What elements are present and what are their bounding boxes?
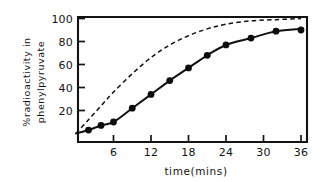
y-axis-title-line2: phenylpyruvate [35, 41, 46, 123]
data-point [298, 27, 305, 34]
chart-figure: 100 80 60 40 20 6 12 18 24 30 36 time(mi… [0, 0, 328, 182]
x-axis-title: time(mins) [164, 165, 227, 177]
y-tick-label-40: 40 [59, 82, 73, 95]
y-axis-title-line1: %radioactivity in [21, 37, 32, 126]
x-tick-labels: 6 12 18 24 30 36 [110, 146, 308, 159]
data-point [248, 35, 255, 42]
data-point [185, 65, 192, 72]
x-tick-label-12: 12 [144, 146, 158, 159]
data-point [204, 52, 211, 59]
data-point [148, 91, 155, 98]
y-tick-label-60: 60 [59, 59, 73, 72]
data-point [85, 127, 92, 134]
theoretical-curve-path [76, 19, 301, 134]
series-observed-phenylpyruvate [76, 27, 304, 134]
y-tick-label-20: 20 [59, 105, 73, 118]
x-tick-label-18: 18 [181, 146, 195, 159]
y-tick-label-80: 80 [59, 36, 73, 49]
data-point [223, 42, 230, 49]
x-tick-label-24: 24 [219, 146, 233, 159]
data-point [273, 28, 280, 35]
y-tick-labels: 100 80 60 40 20 [51, 13, 73, 118]
y-axis-title: %radioactivity in phenylpyruvate [21, 37, 46, 126]
x-tick-label-6: 6 [110, 146, 117, 159]
x-tick-label-36: 36 [294, 146, 308, 159]
data-point [166, 77, 173, 84]
data-point [110, 119, 117, 126]
x-tick-label-30: 30 [256, 146, 270, 159]
y-tick-label-100: 100 [51, 13, 73, 26]
chart-canvas: 100 80 60 40 20 6 12 18 24 30 36 time(mi… [0, 0, 328, 182]
data-point-markers [85, 27, 304, 134]
data-point [129, 105, 136, 112]
data-point [98, 122, 105, 129]
observed-curve-path [76, 29, 301, 134]
series-theoretical-curve [76, 19, 301, 134]
